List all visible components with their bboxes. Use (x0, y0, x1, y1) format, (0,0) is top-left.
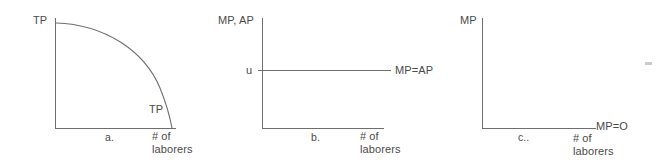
x-axis-label-a-line2: laborers (152, 143, 193, 157)
panel-caption-c: c.. (518, 131, 529, 144)
curve-label-mp-ap: MP=AP (395, 64, 433, 77)
panel-caption-b: b. (311, 131, 320, 144)
x-axis-label-b-line2: laborers (360, 143, 401, 157)
chart-panel-c: MP MP=O c.. # of laborers (430, 0, 651, 166)
chart-panel-b: MP, AP u MP=AP b. # of laborers (215, 0, 436, 166)
x-axis-label-b-line1: # of (360, 130, 379, 144)
axis-label-tp: TP (33, 14, 47, 27)
panel-caption-a: a. (105, 131, 114, 144)
figure-root: TP TP a. # of laborers MP, AP u MP=AP b.… (0, 0, 663, 166)
scan-artifact-speck (645, 62, 652, 65)
curve-label-mp-zero: MP=O (596, 120, 628, 133)
x-axis-label-c-line1: # of (573, 132, 592, 146)
axis-label-mp: MP (460, 14, 477, 27)
curve-label-tp: TP (149, 103, 163, 116)
axis-label-mp-ap: MP, AP (218, 14, 254, 27)
y-tick-label-u: u (246, 64, 252, 77)
chart-panel-a: TP TP a. # of laborers (0, 0, 221, 166)
x-axis-label-a-line1: # of (152, 130, 171, 144)
x-axis-label-c-line2: laborers (573, 145, 614, 159)
